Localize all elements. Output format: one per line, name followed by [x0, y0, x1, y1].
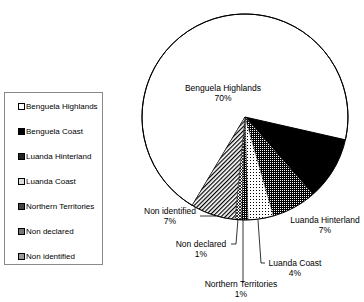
- legend-label: Benguela Coast: [26, 127, 83, 136]
- data-label-name: Benguela Highlands: [168, 83, 278, 93]
- leader-line-non-declared: [231, 219, 238, 244]
- legend-swatch-icon: [18, 203, 25, 210]
- legend-swatch-icon: [18, 153, 25, 160]
- data-label-non-identified: Non identified 7%: [138, 206, 202, 226]
- data-label-name: Luanda Hinterland: [280, 215, 364, 225]
- legend-item-non-identified: Non identified: [18, 252, 75, 261]
- data-label-luanda-coast: Luanda Coast 4%: [263, 258, 327, 278]
- data-label-value: 7%: [138, 216, 202, 226]
- legend-item-non-declared: Non declared: [18, 227, 74, 236]
- data-label-value: 70%: [168, 93, 278, 103]
- legend-label: Northern Territories: [26, 202, 94, 211]
- data-label-name: Northern Territories: [183, 279, 299, 289]
- data-label-name: Non identified: [138, 206, 202, 216]
- legend-swatch-icon: [18, 253, 25, 260]
- chart-legend: Benguela Highlands Benguela Coast Luanda…: [4, 92, 103, 265]
- data-label-luanda-hinterland: Luanda Hinterland 7%: [280, 215, 364, 235]
- legend-item-luanda-hinterland: Luanda Hinterland: [18, 152, 91, 161]
- legend-item-luanda-coast: Luanda Coast: [18, 177, 76, 186]
- legend-swatch-icon: [18, 103, 25, 110]
- legend-swatch-icon: [18, 178, 25, 185]
- data-label-name: Non declared: [171, 239, 231, 249]
- data-label-value: 4%: [263, 268, 327, 278]
- data-label-benguela-highlands: Benguela Highlands 70%: [168, 83, 278, 103]
- data-label-value: 7%: [280, 225, 364, 235]
- legend-item-northern-territories: Northern Territories: [18, 202, 94, 211]
- legend-swatch-icon: [18, 228, 25, 235]
- leader-line-luanda-coast: [258, 220, 265, 263]
- legend-item-benguela-highlands: Benguela Highlands: [18, 102, 98, 111]
- data-label-value: 1%: [171, 249, 231, 259]
- data-label-value: 1%: [183, 289, 299, 299]
- legend-label: Luanda Coast: [26, 177, 76, 186]
- data-label-northern-territories: Northern Territories 1%: [183, 279, 299, 299]
- legend-label: Benguela Highlands: [26, 102, 98, 111]
- legend-label: Luanda Hinterland: [26, 152, 91, 161]
- legend-label: Non identified: [26, 252, 75, 261]
- legend-label: Non declared: [26, 227, 74, 236]
- legend-swatch-icon: [18, 128, 25, 135]
- data-label-name: Luanda Coast: [263, 258, 327, 268]
- data-label-non-declared: Non declared 1%: [171, 239, 231, 259]
- legend-item-benguela-coast: Benguela Coast: [18, 127, 83, 136]
